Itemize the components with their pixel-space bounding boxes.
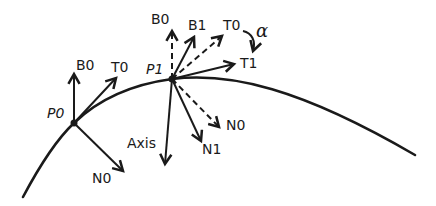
rotation-alpha-label: α <box>256 22 268 40</box>
axis-vector-arrow <box>165 79 172 164</box>
p1-n1-label: N1 <box>202 142 221 156</box>
p0-n0-label: N0 <box>92 171 111 185</box>
p0-t0-label: T0 <box>111 60 128 74</box>
rotation-alpha-arrow <box>243 31 254 51</box>
frenet-frame-diagram: P0 P1 B0 T0 N0 B0 B1 T0 T1 N0 N1 Axis α <box>0 0 436 206</box>
vector-p0-n0-arrow <box>74 123 123 171</box>
diagram-canvas <box>0 0 436 206</box>
p1-t1-label: T1 <box>240 56 257 70</box>
p1-b1-label: B1 <box>188 18 207 32</box>
p1-b0-label: B0 <box>151 12 170 26</box>
p1-t0-label: T0 <box>223 18 240 32</box>
axis-label: Axis <box>127 136 156 150</box>
p1-n0-label: N0 <box>226 118 245 132</box>
point-p0-dot <box>71 120 78 127</box>
frame-p0 <box>74 74 123 171</box>
p0-b0-label: B0 <box>76 58 95 72</box>
point-p1-dot <box>169 76 176 83</box>
space-curve <box>23 77 415 197</box>
vector-p1-n1-arrow <box>172 79 201 141</box>
vector-p0-t0-arrow <box>74 78 116 123</box>
point-p1-label: P1 <box>146 62 163 76</box>
vector-p1-n0-dashed-arrow <box>172 79 219 127</box>
vector-p1-b1-arrow <box>172 37 194 79</box>
point-p0-label: P0 <box>47 106 64 120</box>
